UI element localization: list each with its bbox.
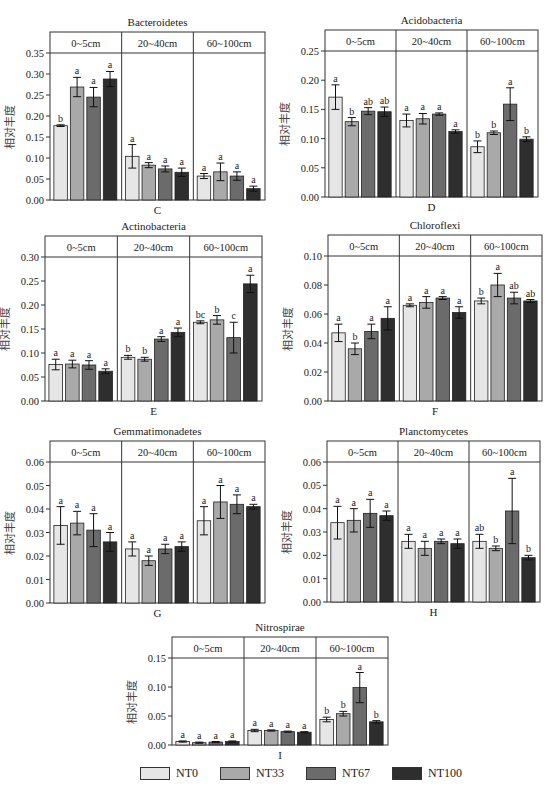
y-axis-label: 相对丰度 bbox=[3, 511, 17, 555]
chart-svg: Nitrospirae0~5cmaaaa20~40cmaaaa60~100cmb… bbox=[130, 620, 430, 760]
significance-letter: a bbox=[406, 522, 411, 533]
depth-header: 0~5cm bbox=[349, 241, 378, 252]
significance-letter: a bbox=[87, 349, 92, 360]
bar bbox=[210, 320, 224, 401]
significance-letter: a bbox=[508, 76, 513, 87]
legend-label: NT67 bbox=[342, 766, 370, 781]
significance-letter: a bbox=[75, 499, 80, 510]
significance-letter: ab bbox=[526, 288, 535, 299]
bar bbox=[121, 357, 135, 401]
y-tick-label: 0.25 bbox=[21, 276, 39, 287]
y-tick-label: 0.02 bbox=[303, 550, 321, 561]
significance-letter: b bbox=[215, 304, 220, 315]
bar bbox=[345, 122, 358, 197]
bar bbox=[332, 333, 345, 401]
y-tick-label: 0.00 bbox=[301, 192, 319, 203]
significance-letter: a bbox=[108, 59, 113, 70]
significance-letter: a bbox=[352, 497, 357, 508]
bar bbox=[159, 549, 172, 603]
y-tick-label: 0.15 bbox=[21, 324, 39, 335]
depth-header: 0~5cm bbox=[71, 38, 100, 49]
significance-letter: b bbox=[526, 543, 531, 554]
y-tick-label: 0.05 bbox=[148, 711, 166, 722]
y-tick-label: 0.08 bbox=[304, 280, 322, 291]
significance-letter: a bbox=[197, 730, 202, 741]
significance-letter: a bbox=[369, 312, 374, 323]
significance-letter: a bbox=[214, 730, 219, 741]
y-tick-label: 0.05 bbox=[303, 480, 321, 491]
chart-panel-nitrospirae: Nitrospirae0~5cmaaaa20~40cmaaaa60~100cmb… bbox=[130, 620, 430, 760]
bar bbox=[247, 507, 260, 603]
y-tick-label: 0.03 bbox=[303, 527, 321, 538]
y-axis-label: 相对丰度 bbox=[278, 102, 292, 146]
bar bbox=[99, 371, 113, 401]
bar bbox=[197, 176, 210, 200]
y-tick-label: 0.04 bbox=[303, 504, 322, 515]
significance-letter: b bbox=[126, 343, 131, 354]
depth-header: 60~100cm bbox=[203, 242, 248, 253]
chart-panel-bacteroidetes: Bacteroidetes0~5cmbaaa20~40cmaaaa60~100c… bbox=[0, 0, 280, 215]
y-axis-label: 相对丰度 bbox=[3, 105, 17, 149]
y-tick-label: 0.15 bbox=[301, 104, 319, 115]
significance-letter: a bbox=[147, 544, 152, 555]
bar bbox=[487, 133, 500, 197]
significance-letter: b bbox=[352, 331, 357, 342]
bar bbox=[138, 359, 152, 401]
y-tick-label: 0.20 bbox=[21, 300, 39, 311]
bar bbox=[449, 132, 462, 197]
significance-letter: b bbox=[142, 345, 147, 356]
bar bbox=[336, 714, 350, 745]
bar bbox=[298, 732, 312, 745]
bar bbox=[142, 165, 155, 200]
bar bbox=[416, 119, 429, 197]
significance-letter: a bbox=[58, 495, 63, 506]
bar bbox=[370, 722, 384, 745]
y-tick-label: 0.15 bbox=[26, 132, 44, 143]
bar bbox=[420, 302, 433, 401]
depth-header: 60~100cm bbox=[207, 447, 252, 458]
significance-letter: a bbox=[251, 174, 256, 185]
significance-letter: a bbox=[251, 492, 256, 503]
significance-letter: a bbox=[159, 325, 164, 336]
significance-letter: a bbox=[495, 261, 500, 272]
bar bbox=[126, 549, 139, 603]
chart-panel-actinobacteria: Actinobacteria0~5cmaaaa20~40cmbbaa60~100… bbox=[0, 215, 280, 420]
significance-letter: a bbox=[218, 151, 223, 162]
y-tick-label: 0.20 bbox=[26, 111, 44, 122]
significance-letter: a bbox=[457, 295, 462, 306]
y-tick-label: 0.20 bbox=[301, 75, 319, 86]
bar bbox=[70, 87, 83, 200]
bar bbox=[103, 79, 116, 200]
chart-svg: Chloroflexi0~5cmabaa20~40cmaaaa60~100cmb… bbox=[275, 215, 553, 420]
depth-header: 20~40cm bbox=[412, 36, 452, 47]
significance-letter: a bbox=[108, 521, 113, 532]
significance-letter: a bbox=[53, 347, 58, 358]
depth-header: 60~100cm bbox=[484, 241, 529, 252]
depth-header: 20~40cm bbox=[414, 447, 454, 458]
panel-letter: E bbox=[150, 405, 157, 417]
bar bbox=[142, 561, 155, 603]
significance-letter: a bbox=[252, 717, 257, 728]
depth-header: 60~100cm bbox=[330, 643, 375, 654]
significance-letter: a bbox=[179, 156, 184, 167]
significance-letter: a bbox=[103, 357, 108, 368]
significance-letter: a bbox=[70, 348, 75, 359]
significance-letter: a bbox=[202, 495, 207, 506]
significance-letter: ab bbox=[509, 280, 518, 291]
bar bbox=[243, 284, 257, 401]
legend-item-nt0: NT0 bbox=[140, 766, 198, 781]
depth-header: 60~100cm bbox=[207, 38, 252, 49]
significance-letter: ab bbox=[363, 96, 372, 107]
significance-letter: a bbox=[439, 527, 444, 538]
significance-letter: a bbox=[130, 133, 135, 144]
y-tick-label: 0.10 bbox=[26, 153, 44, 164]
legend-swatch-nt100 bbox=[392, 767, 422, 780]
chart-svg: Bacteroidetes0~5cmbaaa20~40cmaaaa60~100c… bbox=[0, 0, 280, 215]
y-tick-label: 0.05 bbox=[26, 481, 44, 492]
y-tick-label: 0.10 bbox=[304, 251, 322, 262]
bar bbox=[381, 318, 394, 401]
significance-letter: a bbox=[453, 118, 458, 129]
significance-letter: b bbox=[493, 534, 498, 545]
bar bbox=[491, 285, 504, 401]
significance-letter: a bbox=[179, 530, 184, 541]
